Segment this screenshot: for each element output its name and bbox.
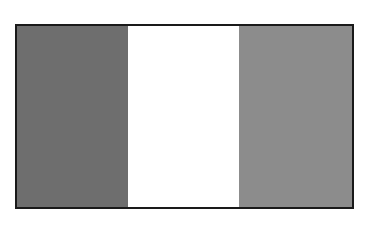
flag-stripe-middle	[128, 26, 239, 207]
flag-stripe-left	[17, 26, 128, 207]
flag-stripe-right	[239, 26, 352, 207]
tricolor-flag	[15, 24, 354, 209]
